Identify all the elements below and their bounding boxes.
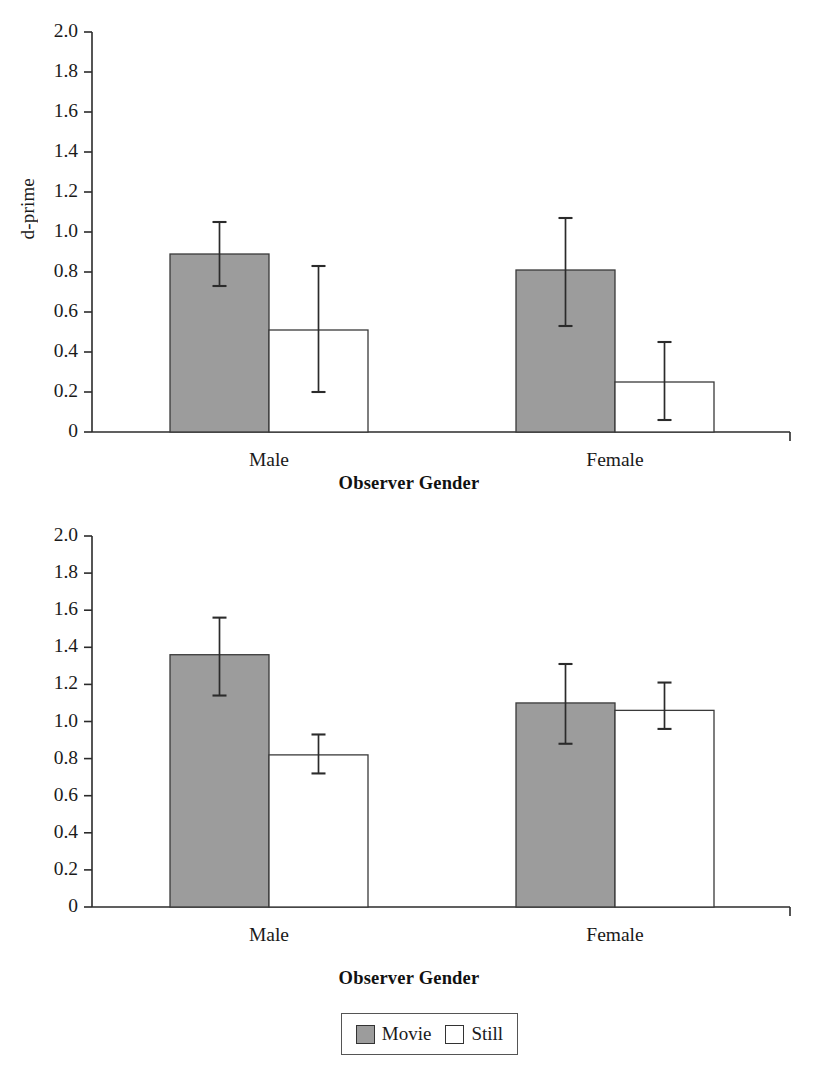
x-axis-category-label: Female <box>535 449 695 471</box>
y-axis-tick-label: 1.8 <box>32 60 78 82</box>
x-axis-category-label: Female <box>535 924 695 946</box>
y-axis-tick-label: 0.6 <box>32 300 78 322</box>
y-axis-tick-label: 1.2 <box>32 672 78 694</box>
plot-area-dprime <box>0 0 818 500</box>
y-axis-tick-label: 0.2 <box>32 380 78 402</box>
legend-swatch-still-icon <box>445 1025 464 1044</box>
x-axis-title-beta: Observer Gender <box>0 968 818 989</box>
legend-swatch-movie-icon <box>356 1025 375 1044</box>
y-axis-tick-label: 0.4 <box>32 340 78 362</box>
y-axis-tick-label: 0.8 <box>32 747 78 769</box>
bar-still-male <box>269 755 368 907</box>
y-axis-tick-label: 1.4 <box>32 140 78 162</box>
y-axis-tick-label: 1.0 <box>32 710 78 732</box>
bar-still-female <box>615 710 714 907</box>
y-axis-tick-label: 0.4 <box>32 821 78 843</box>
y-axis-tick-label: 0.8 <box>32 260 78 282</box>
y-axis-tick-label: 0 <box>32 895 78 917</box>
y-axis-tick-label: 0 <box>32 420 78 442</box>
y-axis-tick-label: 1.4 <box>32 635 78 657</box>
figure-two-panel-bar-charts: d-prime 00.20.40.60.81.01.21.41.61.82.0M… <box>0 0 818 1079</box>
y-axis-tick-label: 0.6 <box>32 784 78 806</box>
y-axis-tick-label: 1.6 <box>32 100 78 122</box>
y-axis-tick-label: 1.6 <box>32 598 78 620</box>
chart-panel-beta: β (response bias) 00.20.40.60.81.01.21.4… <box>0 500 818 1005</box>
plot-area-beta <box>0 500 818 1005</box>
y-axis-tick-label: 1.8 <box>32 561 78 583</box>
x-axis-category-label: Male <box>189 449 349 471</box>
chart-panel-dprime: d-prime 00.20.40.60.81.01.21.41.61.82.0M… <box>0 0 818 500</box>
legend-label-movie: Movie <box>382 1023 432 1045</box>
y-axis-tick-label: 1.2 <box>32 180 78 202</box>
x-axis-title-dprime: Observer Gender <box>0 473 818 494</box>
legend-label-still: Still <box>471 1023 503 1045</box>
chart-legend: Movie Still <box>341 1013 518 1055</box>
x-axis-category-label: Male <box>189 924 349 946</box>
legend-entry-movie: Movie <box>356 1023 432 1045</box>
y-axis-tick-label: 2.0 <box>32 20 78 42</box>
y-axis-tick-label: 1.0 <box>32 220 78 242</box>
legend-entry-still: Still <box>445 1023 503 1045</box>
y-axis-tick-label: 0.2 <box>32 858 78 880</box>
y-axis-tick-label: 2.0 <box>32 524 78 546</box>
